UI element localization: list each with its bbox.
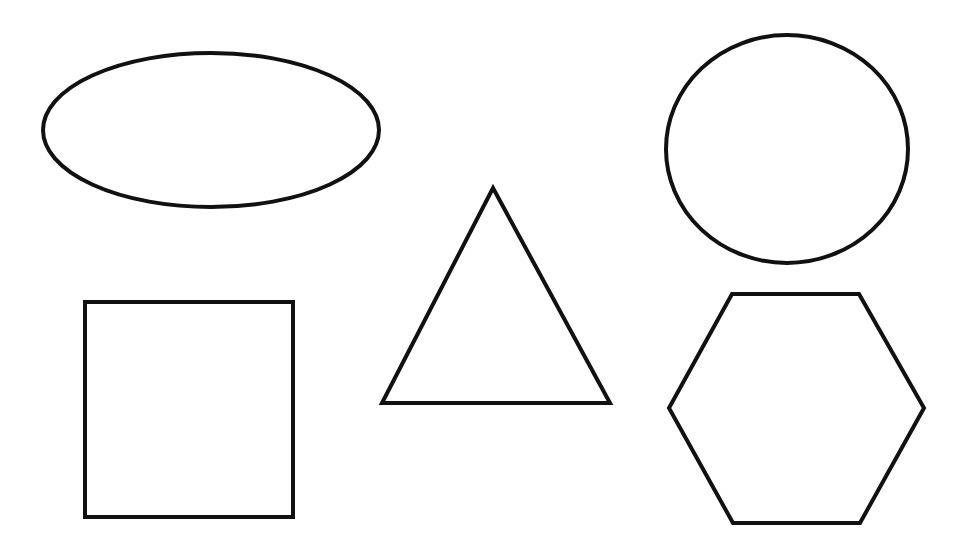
- shapes-canvas: [0, 0, 972, 550]
- background: [0, 0, 972, 550]
